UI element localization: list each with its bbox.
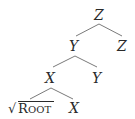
edge-y-y <box>75 56 97 67</box>
edge-x-root <box>30 88 51 99</box>
radical-sign-icon: √ <box>8 101 17 116</box>
edge-x-x <box>51 88 73 99</box>
edge-y-x <box>53 56 75 67</box>
node-y-level1: Y <box>69 38 80 54</box>
root-small-caps: OOT <box>28 104 51 115</box>
syntax-tree-diagram: Z Y Z X Y √ R OOT X <box>0 0 135 119</box>
node-x-level2: X <box>44 70 56 86</box>
node-z-root: Z <box>93 7 104 23</box>
node-z-level1: Z <box>116 38 127 54</box>
node-y-level2: Y <box>92 70 103 86</box>
node-root-radical: √ R OOT <box>8 101 54 116</box>
edge-z-y <box>76 24 99 36</box>
edge-z-z <box>99 24 122 36</box>
node-x-level3: X <box>68 100 80 116</box>
